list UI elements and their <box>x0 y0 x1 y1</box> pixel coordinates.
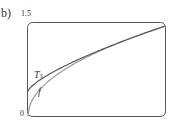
plot-area <box>0 0 169 121</box>
f-label: f <box>38 86 41 97</box>
f-curve <box>28 26 165 116</box>
t3-label: T3 <box>34 69 43 80</box>
plot-frame <box>28 23 166 117</box>
